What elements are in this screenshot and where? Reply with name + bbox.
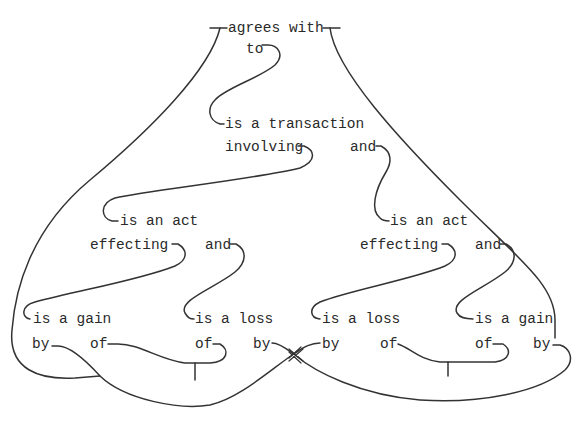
node-by-loss-left: by (253, 336, 271, 352)
link-and-gain-right (456, 244, 514, 319)
node-to: to (246, 41, 263, 57)
node-and-top: and (350, 139, 376, 155)
node-is-a-loss-right: is a loss (322, 311, 400, 327)
node-is-a-loss-left: is a loss (195, 311, 273, 327)
node-is-a-gain-right: is a gain (475, 311, 553, 327)
link-and-act-right (375, 146, 390, 221)
node-is-an-act-left: is an act (120, 213, 198, 229)
link-to-transaction (210, 45, 280, 124)
node-effecting-left: effecting (90, 237, 168, 253)
node-of-loss-left: of (195, 336, 212, 352)
node-of-gain-right: of (475, 336, 492, 352)
node-effecting-right: effecting (360, 237, 438, 253)
node-by-gain-right: by (533, 336, 551, 352)
arc-root-right (330, 28, 555, 338)
node-is-an-act-right: is an act (390, 213, 468, 229)
node-is-a-gain-left: is a gain (33, 311, 111, 327)
node-by-gain-left: by (32, 336, 50, 352)
link-by-gain-left-by-loss-right (52, 343, 320, 406)
conceptual-diagram: agrees with to is a transaction involvin… (0, 0, 583, 422)
link-involving-act-left (103, 146, 312, 221)
node-of-gain-left: of (90, 336, 107, 352)
node-by-loss-right: by (322, 336, 340, 352)
node-is-a-transaction: is a transaction (225, 116, 364, 132)
node-of-loss-right: of (380, 336, 397, 352)
node-involving: involving (225, 139, 303, 155)
link-and-loss-left (184, 244, 244, 319)
node-and-right: and (475, 237, 501, 253)
link-effecting-loss-right (312, 244, 455, 319)
link-effecting-gain-left (24, 244, 185, 319)
node-agrees-with: agrees with (228, 20, 324, 36)
node-and-left: and (205, 237, 231, 253)
link-by-loss-left-by-gain-right (272, 343, 570, 401)
